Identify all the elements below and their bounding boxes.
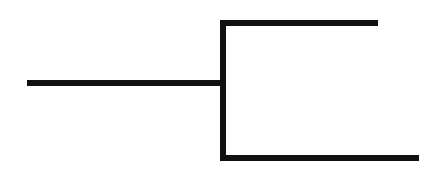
- tree-diagram-canvas: [0, 0, 440, 173]
- lower-branch-line: [220, 155, 419, 161]
- root-stem-line: [27, 80, 223, 86]
- upper-branch-line: [220, 20, 378, 26]
- vertical-connector-line: [220, 20, 226, 161]
